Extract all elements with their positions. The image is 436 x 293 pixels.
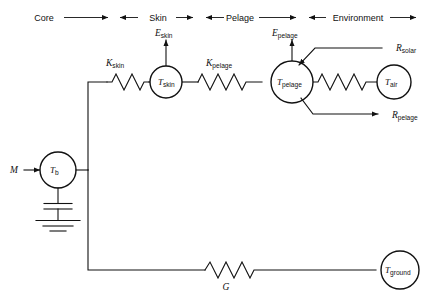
flux-e-skin: Eskin: [154, 28, 173, 66]
region-label-environment: Environment: [333, 13, 384, 23]
region-label-pelage: Pelage: [226, 13, 254, 23]
resistor-label-k-pelage: Kpelage: [205, 58, 232, 70]
source-m: M: [9, 165, 40, 175]
region-label-skin: Skin: [149, 13, 167, 23]
flux-e-pelage: Epelage: [271, 28, 298, 66]
region-skin: Skin: [120, 13, 193, 23]
flux-label-e-skin: Eskin: [154, 28, 173, 39]
flux-label-r-pelage: Rpelage: [391, 110, 418, 122]
resistor-label-k-skin: Kskin: [105, 58, 124, 69]
region-pelage: Pelage: [206, 13, 296, 23]
flux-label-e-pelage: Epelage: [271, 28, 298, 40]
capacitor-symbol: [44, 188, 72, 220]
node-t-b: Tb: [40, 152, 76, 188]
thermal-circuit-svg: Core Skin Pelage Environment Eskin Epela…: [0, 0, 436, 293]
resistor-label-g: G: [223, 282, 230, 292]
flux-label-r-solar: Rsolar: [395, 43, 417, 54]
node-t-ground: Tground: [381, 251, 419, 289]
node-t-air: Tair: [377, 65, 411, 99]
node-t-skin: Tskin: [150, 66, 182, 98]
flux-r-pelage: Rpelage: [301, 98, 418, 122]
earth-ground-symbol: [36, 221, 80, 232]
node-t-pelage: Tpelage: [271, 61, 313, 103]
source-label-m: M: [9, 165, 19, 175]
region-environment: Environment: [309, 13, 416, 23]
region-label-core: Core: [34, 13, 54, 23]
region-core: Core: [34, 13, 108, 23]
flux-r-solar: Rsolar: [299, 43, 417, 65]
diagram-canvas: Core Skin Pelage Environment Eskin Epela…: [0, 0, 436, 293]
